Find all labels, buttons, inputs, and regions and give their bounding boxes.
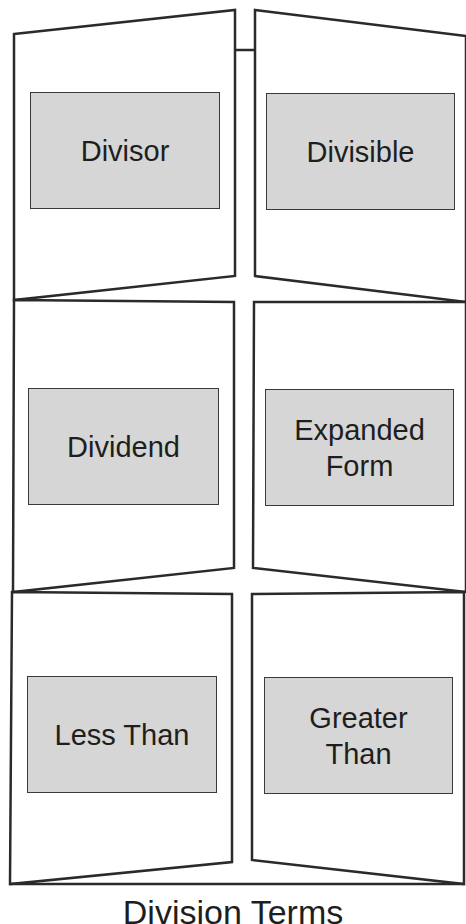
term-box-greater-than: Greater Than xyxy=(264,677,453,794)
term-label: Expanded Form xyxy=(294,412,425,484)
term-box-less-than: Less Than xyxy=(27,676,217,793)
term-box-divisor: Divisor xyxy=(30,92,220,209)
term-box-dividend: Dividend xyxy=(28,388,219,505)
term-label: Less Than xyxy=(55,717,190,753)
term-box-expanded-form: Expanded Form xyxy=(265,389,454,506)
term-label: Dividend xyxy=(67,429,180,465)
term-label: Greater Than xyxy=(295,700,422,772)
term-box-divisible: Divisible xyxy=(266,93,455,210)
diagram-title: Division Terms xyxy=(0,892,466,924)
term-label: Divisible xyxy=(307,134,415,170)
term-label: Divisor xyxy=(81,133,170,169)
